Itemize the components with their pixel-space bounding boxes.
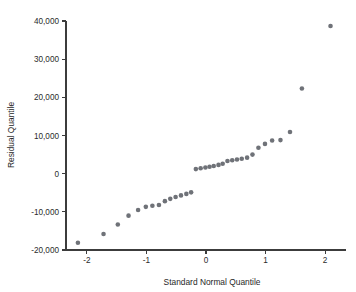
- data-point: [203, 165, 208, 170]
- data-point: [150, 203, 155, 208]
- data-point: [126, 213, 131, 218]
- data-point: [136, 208, 141, 213]
- qq-plot-figure: -20,000-10,000010,00020,00030,00040,000 …: [0, 0, 356, 292]
- data-point: [198, 166, 203, 171]
- y-tick-label: 20,000: [34, 93, 59, 102]
- y-axis-title: Residual Quantile: [6, 102, 16, 168]
- x-tick-label: 1: [263, 256, 268, 265]
- data-point: [270, 138, 275, 143]
- plot-canvas: -20,000-10,000010,00020,00030,00040,000 …: [0, 0, 356, 292]
- x-tick-label: 0: [204, 256, 209, 265]
- data-point: [173, 195, 178, 200]
- y-tick-label: 10,000: [34, 132, 59, 141]
- data-point: [288, 130, 293, 135]
- y-tick-label: 30,000: [34, 55, 59, 64]
- data-point: [225, 159, 230, 164]
- data-point: [168, 197, 173, 202]
- data-point: [300, 86, 305, 91]
- y-tick-group: -20,000-10,000010,00020,00030,00040,000: [31, 17, 66, 255]
- data-point: [194, 167, 199, 172]
- x-tick-label: -1: [143, 256, 151, 265]
- y-tick-label: -10,000: [31, 208, 59, 217]
- y-tick-label: 0: [54, 170, 59, 179]
- data-point: [328, 24, 333, 29]
- data-point: [184, 192, 189, 197]
- x-axis-title: Standard Normal Quantile: [164, 277, 261, 287]
- data-point: [263, 142, 268, 147]
- x-tick-label: -2: [83, 256, 91, 265]
- data-point: [220, 161, 225, 166]
- y-tick-label: 40,000: [34, 17, 59, 26]
- x-tick-label: 2: [323, 256, 328, 265]
- data-point: [245, 155, 250, 160]
- data-point: [157, 203, 162, 208]
- data-point: [278, 138, 283, 143]
- data-point: [144, 205, 149, 210]
- y-tick-label: -20,000: [31, 246, 59, 255]
- x-tick-group: -2-1012: [83, 250, 328, 265]
- x-axis: -2-1012: [66, 250, 346, 265]
- data-point: [189, 190, 194, 195]
- data-point: [163, 199, 168, 204]
- data-point: [179, 193, 184, 198]
- data-point: [256, 145, 261, 150]
- data-point: [101, 232, 106, 237]
- data-point: [230, 158, 235, 163]
- data-point: [250, 152, 255, 157]
- data-point: [211, 164, 216, 169]
- data-point: [76, 240, 81, 245]
- data-point: [235, 157, 240, 162]
- y-axis: -20,000-10,000010,00020,00030,00040,000: [31, 17, 66, 255]
- data-point: [216, 163, 221, 168]
- scatter-points: [76, 24, 333, 245]
- data-point: [116, 222, 121, 227]
- data-point: [207, 165, 212, 170]
- data-point: [239, 156, 244, 161]
